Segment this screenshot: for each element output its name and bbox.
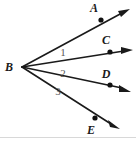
ray-bd: D bbox=[22, 67, 131, 92]
ray-ba-arrowhead bbox=[118, 9, 130, 17]
point-a-label: A bbox=[89, 1, 98, 15]
point-e-dot bbox=[92, 115, 97, 120]
point-c-dot bbox=[107, 49, 112, 54]
ray-bc-arrowhead bbox=[121, 47, 133, 54]
point-e-label: E bbox=[86, 123, 95, 137]
ray-be-arrowhead bbox=[108, 120, 120, 129]
angle-label-3: 3 bbox=[55, 85, 61, 97]
point-c-label: C bbox=[102, 33, 111, 47]
angle-diagram-figure: A C D E B 1 2 3 bbox=[0, 0, 136, 142]
ray-bd-arrowhead bbox=[119, 85, 131, 92]
ray-bc: C bbox=[22, 33, 133, 67]
point-d-dot bbox=[107, 82, 112, 87]
vertex-b: B bbox=[4, 60, 13, 74]
angle-diagram-canvas: A C D E B 1 2 3 bbox=[0, 0, 136, 142]
point-d-label: D bbox=[101, 67, 111, 81]
ray-ba: A bbox=[22, 1, 130, 67]
angle-label-2: 2 bbox=[60, 67, 66, 79]
angle-label-1: 1 bbox=[60, 46, 66, 58]
point-b-label: B bbox=[4, 60, 13, 74]
point-a-dot bbox=[98, 17, 103, 22]
